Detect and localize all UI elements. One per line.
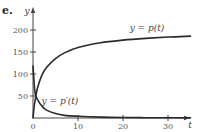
series-label-p-prime: y = p′(t) (41, 96, 79, 106)
chart: ty010203050100150200y = p(t)y = p′(t) (0, 0, 197, 132)
x-tick-label: 20 (118, 122, 128, 131)
y-tick-label: 50 (18, 92, 28, 101)
x-tick-label: 10 (73, 122, 83, 131)
y-axis-arrow-icon (31, 7, 35, 13)
labels-group: ty010203050100150200y = p(t)y = p′(t) (13, 6, 192, 131)
y-axis-label: y (23, 6, 30, 16)
y-tick-label: 100 (13, 70, 28, 79)
x-tick-label: 0 (30, 122, 35, 131)
series-label-p: y = p(t) (129, 23, 165, 33)
x-tick-label: 30 (163, 122, 173, 131)
y-tick-label: 200 (13, 26, 28, 35)
x-axis-label: t (188, 120, 192, 130)
series-p-prime-curve (33, 66, 191, 118)
y-tick-label: 150 (13, 48, 28, 57)
